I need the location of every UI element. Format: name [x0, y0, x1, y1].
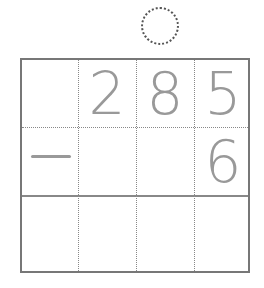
minuend-tens-digit: 8: [136, 62, 194, 126]
answer-cell-hundreds[interactable]: [78, 197, 136, 273]
minuend-hundreds-digit: 2: [78, 62, 136, 126]
subtraction-grid: 2 8 5 6: [20, 58, 250, 273]
subtrahend-ones-digit: 6: [194, 130, 252, 194]
answer-cell-ones[interactable]: [194, 197, 250, 273]
answer-cell-thousands[interactable]: [22, 197, 78, 273]
minus-sign: [31, 155, 71, 158]
answer-cell-tens[interactable]: [136, 197, 194, 273]
minuend-ones-digit: 5: [194, 62, 252, 126]
carry-circle[interactable]: [141, 7, 179, 45]
